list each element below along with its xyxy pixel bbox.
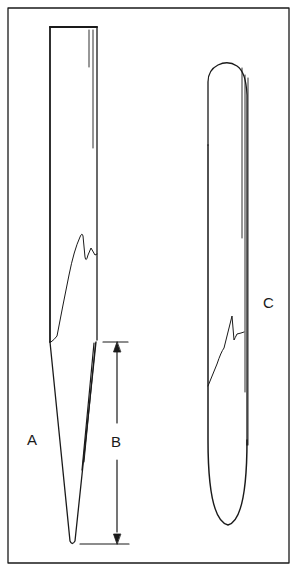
label-a: A bbox=[27, 432, 37, 447]
tapered-tube-a bbox=[50, 27, 97, 544]
diagram-canvas bbox=[0, 0, 298, 567]
label-b: B bbox=[111, 434, 121, 449]
crack-line-c bbox=[208, 316, 244, 386]
round-tube-c bbox=[208, 63, 248, 525]
crack-line-a bbox=[51, 234, 97, 342]
label-c: C bbox=[263, 295, 274, 310]
dimension-arrow-b bbox=[80, 342, 129, 544]
